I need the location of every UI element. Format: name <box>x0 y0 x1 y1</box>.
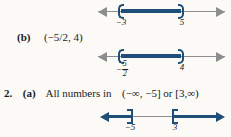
axis-left-arrowhead-icon <box>98 7 107 17</box>
tick-label-right: 5 <box>180 17 185 27</box>
number-line-union-rays-neg5-and-3: −5 3 <box>100 107 225 137</box>
item-2a-body-text: All numbers in <box>45 87 111 99</box>
right-ray-highlight <box>174 115 216 118</box>
answer-item-1b: (b) (−5/2, 4) <box>17 32 83 43</box>
axis-left-arrowhead-icon <box>98 52 107 62</box>
fraction-minus-sign: − <box>116 64 121 74</box>
tick-label-right: 4 <box>180 62 185 72</box>
highlighted-segment <box>121 9 181 13</box>
number-line-interval-neg3-to-5: −3 5 <box>98 2 225 32</box>
answer-key-page: −3 5 (b) (−5/2, 4) − 5 2 4 2. <box>0 0 231 137</box>
axis-right-arrowhead-icon <box>216 52 225 62</box>
fraction-denominator: 2 <box>122 70 128 78</box>
number-line-interval-neg5over2-to-4: − 5 2 4 <box>98 47 225 77</box>
left-ray-arrowhead-icon <box>100 112 109 122</box>
item-1b-interval-notation: (−5/2, 4) <box>44 31 83 43</box>
tick-label-right: 3 <box>173 122 178 132</box>
tick-label-left: −5 <box>125 122 136 132</box>
item-1b-label: (b) <box>17 31 30 43</box>
answer-item-2a: 2. (a) All numbers in (−∞, −5] or [3,∞) <box>4 88 199 99</box>
right-ray-arrowhead-icon <box>216 112 225 122</box>
item-2a-interval-notation: (−∞, −5] or [3,∞) <box>122 87 199 99</box>
item-2-number-label: 2. <box>4 87 12 99</box>
highlighted-segment <box>121 54 181 58</box>
axis-right-arrowhead-icon <box>216 7 225 17</box>
axis-middle-segment <box>130 116 176 117</box>
tick-label-left-fraction: − 5 2 <box>116 60 128 78</box>
tick-label-left: −3 <box>116 17 127 27</box>
fraction-numerator: 5 <box>122 60 128 68</box>
item-2a-part-label: (a) <box>23 87 36 99</box>
